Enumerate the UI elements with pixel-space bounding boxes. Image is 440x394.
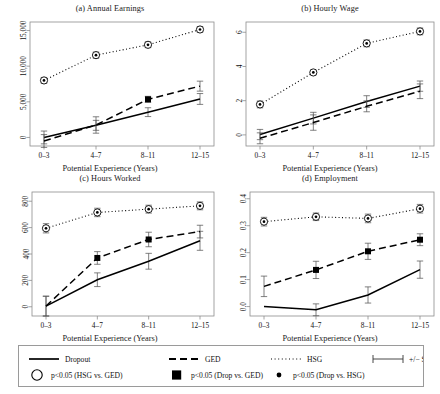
svg-text:0: 0 (22, 305, 31, 309)
svg-text:400: 400 (22, 248, 31, 259)
panel-b-series-dropout (257, 81, 423, 140)
figure-legend: DropoutGEDHSG+/− S.E.p<0.05 (HSG vs. GED… (18, 345, 424, 387)
svg-text:0: 0 (20, 135, 29, 139)
panel-d-plot: 0.00.10.20.30.40–34–78–1112–15 (220, 174, 440, 350)
svg-text:0.2: 0.2 (240, 248, 249, 257)
panel-d-series-ged (261, 234, 423, 297)
svg-text:0–3: 0–3 (259, 321, 270, 330)
chart-panel-c: 02004006008000–34–78–1112–15 (c) Hours W… (0, 174, 220, 350)
svg-text:600: 600 (22, 222, 31, 233)
panel-b-y-axis: 0246 (236, 30, 247, 137)
panel-c-x-axis: 0–34–78–1112–15 (41, 316, 210, 330)
svg-text:2: 2 (236, 99, 245, 103)
svg-text:0.0: 0.0 (240, 302, 249, 311)
panel-d-y-axis: 0.00.10.20.30.4 (240, 194, 251, 311)
svg-text:10,000: 10,000 (20, 56, 29, 76)
legend-label-p-hsg-ged: p<0.05 (HSG vs. GED) (51, 371, 123, 380)
svg-text:12–15: 12–15 (191, 321, 210, 330)
panel-d-xlabel: Potential Experience (Years) (220, 334, 440, 343)
panel-d-x-axis: 0–34–78–1112–15 (259, 316, 430, 330)
panel-b-x-axis: 0–34–78–1112–15 (255, 146, 430, 160)
panel-d-series-dropout (264, 261, 423, 316)
svg-text:12–15: 12–15 (411, 321, 430, 330)
svg-text:6: 6 (236, 30, 245, 34)
panel-b-title: (b) Hourly Wage (220, 4, 440, 13)
svg-text:8–11: 8–11 (360, 151, 375, 160)
svg-text:0–3: 0–3 (255, 151, 266, 160)
panel-c-plot: 02004006008000–34–78–1112–15 (0, 174, 220, 350)
svg-text:200: 200 (22, 275, 31, 286)
figure-root: 05,00010,00015,0000–34–78–1112–15 (a) An… (0, 0, 440, 394)
panel-d-series-hsg (260, 204, 423, 226)
svg-text:0–3: 0–3 (39, 151, 50, 160)
svg-text:0: 0 (236, 133, 245, 137)
chart-panel-d: 0.00.10.20.30.40–34–78–1112–15 (d) Emplo… (220, 174, 440, 350)
panel-b-plot: 02460–34–78–1112–15 (220, 4, 440, 180)
legend-label-ged: GED (205, 355, 221, 364)
svg-text:8–11: 8–11 (141, 151, 156, 160)
panel-a-xlabel: Potential Experience (Years) (0, 164, 220, 173)
panel-c-xlabel: Potential Experience (Years) (0, 334, 220, 343)
legend-label-dropout: Dropout (65, 355, 91, 364)
panel-d-title: (d) Employment (220, 174, 440, 183)
svg-text:5,000: 5,000 (20, 93, 29, 110)
svg-text:4–7: 4–7 (91, 151, 102, 160)
svg-text:4: 4 (236, 64, 245, 68)
panel-b-xlabel: Potential Experience (Years) (220, 164, 440, 173)
svg-text:0.3: 0.3 (240, 221, 249, 230)
panel-a-series-hsg (40, 26, 203, 84)
svg-text:15,000: 15,000 (20, 20, 29, 40)
panel-a-title: (a) Annual Earnings (0, 4, 220, 13)
legend-graphics: DropoutGEDHSG+/− S.E.p<0.05 (HSG vs. GED… (19, 346, 423, 386)
panel-a-plot: 05,00010,00015,0000–34–78–1112–15 (0, 4, 220, 180)
svg-text:800: 800 (22, 195, 31, 206)
legend-label-p-drop-ged: p<0.05 (Drop vs. GED) (191, 371, 263, 380)
panel-a-series-ged (41, 81, 203, 147)
panel-b-series-hsg (256, 28, 423, 108)
svg-text:12–15: 12–15 (191, 151, 210, 160)
legend-label-hsg: HSG (307, 355, 323, 364)
svg-text:0–3: 0–3 (41, 321, 52, 330)
panel-c-y-axis: 0200400600800 (22, 195, 33, 308)
svg-text:8–11: 8–11 (142, 321, 157, 330)
panel-a-y-axis: 05,00010,00015,000 (20, 20, 31, 139)
panel-a-x-axis: 0–34–78–1112–15 (39, 146, 210, 160)
svg-text:0.4: 0.4 (240, 194, 249, 203)
panel-c-series-hsg (42, 202, 203, 233)
svg-text:0.1: 0.1 (240, 275, 249, 284)
svg-text:8–11: 8–11 (361, 321, 376, 330)
chart-panel-a: 05,00010,00015,0000–34–78–1112–15 (a) An… (0, 4, 220, 180)
legend-label-p-drop-hsg: p<0.05 (Drop vs. HSG) (293, 371, 365, 380)
panel-c-series-dropout (43, 231, 203, 316)
panel-c-title: (c) Hours Worked (0, 174, 220, 183)
svg-text:4–7: 4–7 (308, 151, 319, 160)
svg-text:12–15: 12–15 (411, 151, 430, 160)
chart-panel-b: 02460–34–78–1112–15 (b) Hourly Wage Pote… (220, 4, 440, 180)
panel-a-series-dropout (41, 94, 203, 144)
svg-text:4–7: 4–7 (311, 321, 322, 330)
svg-text:4–7: 4–7 (92, 321, 103, 330)
legend-label-se: +/− S.E. (409, 355, 423, 364)
